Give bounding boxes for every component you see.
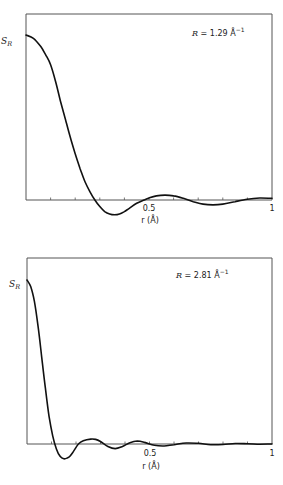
resolution-annotation: R = 2.81 Å−1: [175, 268, 229, 280]
plot-frame: [26, 14, 272, 200]
x-axis-label: r (Å): [142, 460, 160, 471]
x-tick-label-1: 1: [269, 204, 274, 213]
plot-frame: [27, 258, 272, 444]
resolution-annotation: R = 1.29 Å−1: [191, 26, 245, 38]
x-tick-label-0.5: 0.5: [144, 449, 157, 458]
chart-panel-bottom: SR R = 2.81 Å−1 0.5 1 r (Å): [9, 258, 275, 471]
s-r-curve: [27, 280, 272, 459]
chart-panel-top: SR R = 1.29 Å−1 0.5 1 r (Å): [1, 14, 275, 225]
resolution-function-figure: SR R = 1.29 Å−1 0.5 1 r (Å) SR R = 2.81 …: [0, 0, 283, 485]
x-axis-label: r (Å): [141, 214, 159, 225]
x-tick-label-0.5: 0.5: [143, 204, 156, 213]
y-axis-label: SR: [1, 36, 12, 48]
x-tick-label-1: 1: [269, 449, 274, 458]
y-axis-label: SR: [9, 279, 20, 291]
s-r-curve: [26, 35, 272, 215]
